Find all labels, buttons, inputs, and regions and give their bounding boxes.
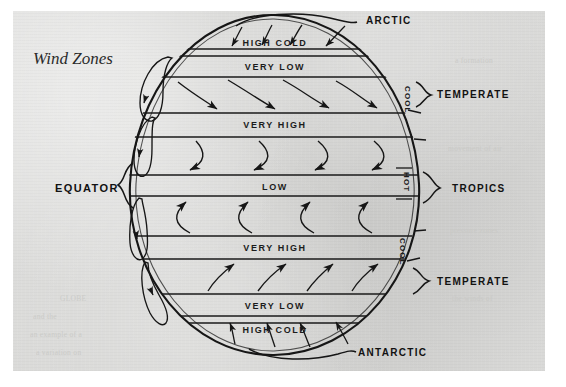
band-label-high-cold-north: HIGH COLD	[243, 38, 308, 48]
wind-arrows-north-trades	[190, 141, 384, 170]
zone-label-arctic: ARCTIC	[366, 15, 412, 26]
band-label-very-high-south: VERY HIGH	[243, 243, 306, 253]
wind-arrows-north-temperate	[178, 80, 377, 109]
band-label-very-high-north: VERY HIGH	[243, 120, 306, 130]
zone-label-equator: EQUATOR	[55, 182, 119, 194]
bracket-temperate-north	[416, 82, 431, 107]
band-label-high-cold-south: HIGH COLD	[243, 325, 308, 335]
edge-label-cool-north: COOL	[403, 86, 412, 114]
zone-label-tropics: TROPICS	[452, 183, 506, 194]
screenshot-root: Wind Zones	[0, 0, 566, 387]
zone-label-antarctic: ANTARCTIC	[358, 347, 427, 358]
band-label-very-low-south: VERY LOW	[245, 301, 305, 311]
rim-tick-4	[407, 258, 420, 261]
page-title: Wind Zones	[33, 49, 113, 68]
band-labels: HIGH COLD VERY LOW VERY HIGH LOW VERY HI…	[243, 38, 308, 335]
wind-arrows-south-trades	[177, 202, 372, 233]
zone-label-temperate-north: TEMPERATE	[437, 89, 510, 100]
rim-tick-3	[414, 230, 426, 231]
bracket-temperate-south	[413, 268, 429, 294]
edge-label-cool-south: COOL	[398, 238, 407, 266]
band-label-very-low-north: VERY LOW	[245, 62, 305, 72]
wind-arrows-south-temperate	[208, 264, 378, 291]
rim-tick-2	[414, 139, 426, 140]
wind-zones-diagram: Wind Zones	[0, 0, 566, 387]
bracket-tropics	[423, 172, 440, 203]
zone-label-temperate-south: TEMPERATE	[437, 276, 510, 287]
band-label-low-equator: LOW	[262, 182, 288, 192]
edge-label-hot: HOT	[402, 172, 411, 192]
cell-loop-n-temperate	[140, 57, 172, 121]
